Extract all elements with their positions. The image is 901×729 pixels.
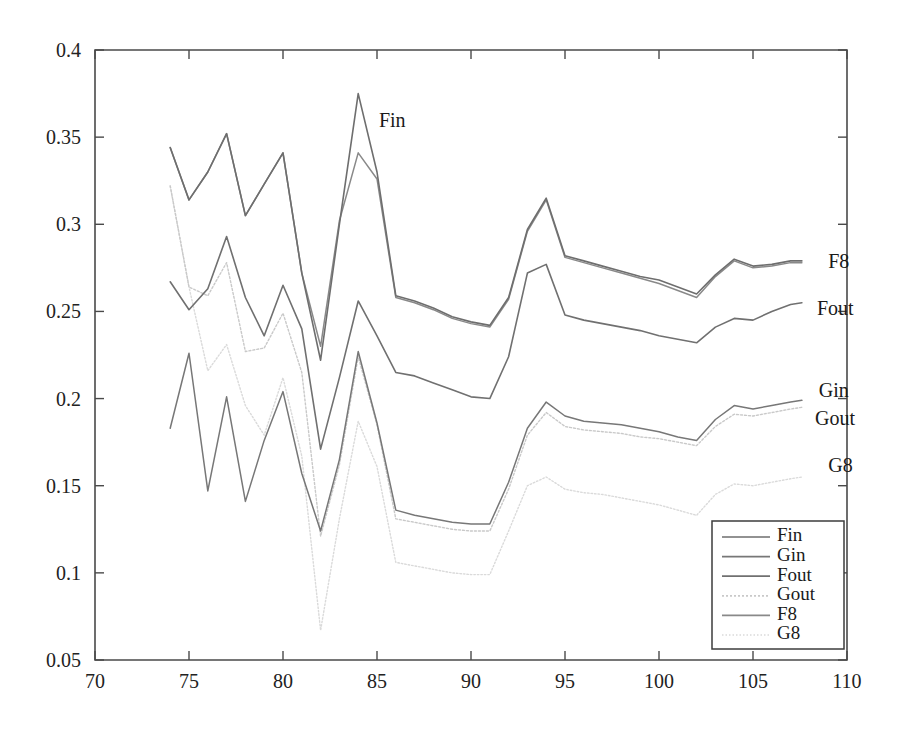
series-label-f8: F8: [828, 250, 849, 272]
legend-label-fout: Fout: [777, 564, 813, 585]
series-label-gout: Gout: [815, 407, 855, 429]
series-label-gin: Gin: [819, 379, 849, 401]
legend-label-g8: G8: [777, 622, 800, 643]
series-line-f8: [170, 134, 802, 347]
y-axis-tick-label: 0.2: [56, 388, 81, 410]
series-label-fin: Fin: [379, 109, 406, 131]
x-axis-tick-label: 85: [367, 670, 387, 692]
legend-label-fin: Fin: [777, 524, 803, 545]
data-series-group: [170, 94, 802, 631]
y-axis-tick-label: 0.35: [46, 126, 81, 148]
series-label-g8: G8: [828, 454, 852, 476]
y-axis-tick-label: 0.05: [46, 649, 81, 671]
line-chart-plot: 0.050.10.150.20.250.30.350.4 70758085909…: [0, 0, 901, 729]
y-axis-tick-label: 0.1: [56, 562, 81, 584]
series-line-fin: [170, 94, 802, 361]
legend-label-gout: Gout: [777, 583, 816, 604]
x-axis-tick-label: 75: [179, 670, 199, 692]
y-axis-tick-label: 0.4: [56, 39, 81, 61]
x-axis-tick-labels: 707580859095100105110: [85, 670, 862, 692]
x-axis-tick-label: 100: [644, 670, 674, 692]
series-line-g8: [170, 186, 802, 630]
legend-label-gin: Gin: [777, 544, 806, 565]
x-axis-tick-label: 95: [555, 670, 575, 692]
legend[interactable]: FinGinFoutGoutF8G8: [712, 521, 844, 649]
x-axis-tick-label: 105: [738, 670, 768, 692]
legend-label-f8: F8: [777, 603, 797, 624]
x-axis-tick-label: 90: [461, 670, 481, 692]
series-line-fout: [170, 236, 802, 449]
y-axis-tick-label: 0.15: [46, 475, 81, 497]
y-axis-tick-label: 0.3: [56, 213, 81, 235]
series-label-fout: Fout: [817, 297, 854, 319]
series-inline-labels: FinF8FoutGinGoutG8: [379, 109, 856, 476]
series-line-gout: [170, 186, 802, 536]
x-axis-tick-label: 110: [832, 670, 861, 692]
x-axis-tick-label: 70: [85, 670, 105, 692]
x-axis-tick-label: 80: [273, 670, 293, 692]
chart-figure: 0.050.10.150.20.250.30.350.4 70758085909…: [0, 0, 901, 729]
y-axis-tick-label: 0.25: [46, 300, 81, 322]
y-axis-tick-labels: 0.050.10.150.20.250.30.350.4: [46, 39, 81, 671]
